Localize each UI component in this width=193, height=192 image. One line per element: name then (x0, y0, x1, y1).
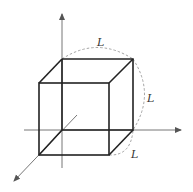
cube (39, 59, 133, 155)
right-dimension-arc (133, 59, 145, 130)
label-right-L: L (146, 92, 154, 105)
label-bottom-L: L (130, 148, 138, 161)
label-top-L: L (96, 36, 104, 49)
top-dimension-arc (62, 48, 133, 60)
cube-edge-bottom-right (109, 130, 133, 155)
cube-edge-bottom-left (39, 130, 62, 155)
dimension-arcs (62, 48, 145, 156)
cube-edge-top-right (109, 59, 133, 83)
cube-edge-top-left (39, 59, 62, 83)
cube-diagram: L L L (0, 0, 193, 192)
